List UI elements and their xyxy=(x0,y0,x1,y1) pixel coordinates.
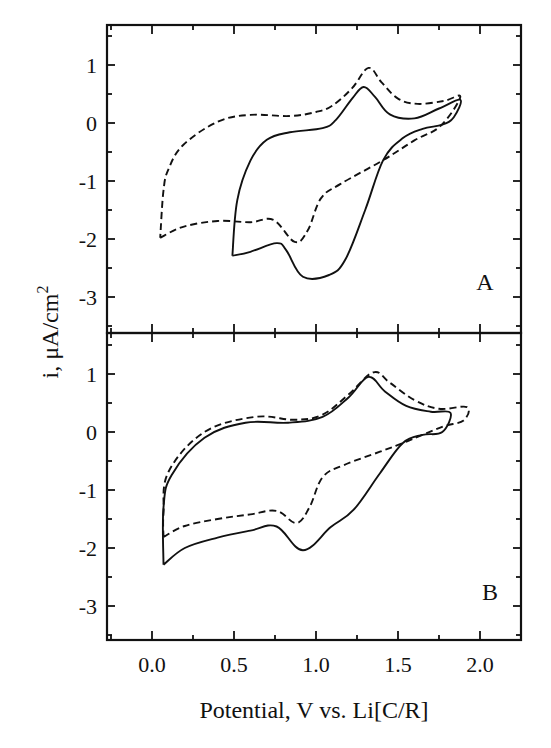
x-tick-label: 1.5 xyxy=(384,652,412,677)
plot-frame xyxy=(107,25,521,333)
y-axis-ticks xyxy=(107,345,521,635)
y-tick-label: 1 xyxy=(86,53,97,78)
plot-frame xyxy=(107,333,521,640)
panel-b: 10-1-2-3B xyxy=(79,333,521,640)
panel-label: A xyxy=(476,269,494,295)
x-tick-label: 2.0 xyxy=(466,652,494,677)
y-tick-label: -1 xyxy=(79,478,97,503)
x-axis-title: Potential, V vs. Li[C/R] xyxy=(199,697,428,723)
series-dashed-line xyxy=(163,372,469,537)
y-tick-label: -3 xyxy=(79,594,97,619)
x-axis-ticks xyxy=(111,25,480,333)
series-dashed-line xyxy=(160,68,460,242)
x-tick-label: 1.0 xyxy=(302,652,330,677)
x-tick-label: 0.0 xyxy=(138,652,166,677)
series-solid-line xyxy=(163,377,451,565)
y-tick-label: 1 xyxy=(86,362,97,387)
y-axis-title-superscript: 2 xyxy=(34,286,51,294)
y-axis-title: i, μA/cm2 xyxy=(34,286,63,379)
cyclic-voltammogram-figure: 10-1-2-3A 10-1-2-3B 0.00.51.01.52.0 Pote… xyxy=(0,0,551,748)
y-tick-label: 0 xyxy=(86,420,97,445)
y-tick-label: -3 xyxy=(79,285,97,310)
panel-a: 10-1-2-3A xyxy=(79,25,521,333)
y-tick-label: 0 xyxy=(86,111,97,136)
y-tick-label: -2 xyxy=(79,536,97,561)
y-tick-label: -1 xyxy=(79,169,97,194)
y-axis-title-main: i, μA/cm xyxy=(37,293,63,378)
y-tick-label: -2 xyxy=(79,227,97,252)
panel-label: B xyxy=(482,579,498,605)
x-axis: 0.00.51.01.52.0 xyxy=(138,652,494,677)
y-axis-ticks xyxy=(107,36,521,326)
x-tick-label: 0.5 xyxy=(220,652,248,677)
